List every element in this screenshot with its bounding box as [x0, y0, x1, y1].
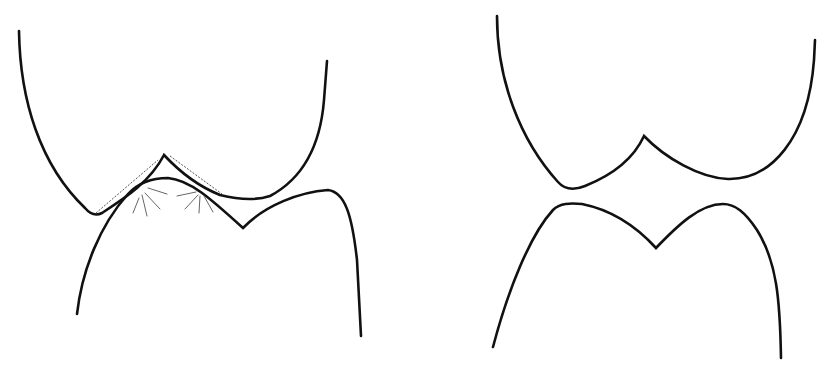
left-upper-outline [19, 31, 327, 214]
right-stress-hatch [177, 192, 213, 213]
left-dotted-flank [96, 160, 158, 213]
right-lower-outline [493, 204, 781, 358]
diagram-canvas [0, 0, 829, 365]
diagram-svg [0, 0, 829, 365]
left-stress-hatch [133, 188, 167, 216]
left-panel [19, 31, 361, 336]
right-panel [493, 16, 815, 358]
right-upper-outline [497, 16, 815, 189]
